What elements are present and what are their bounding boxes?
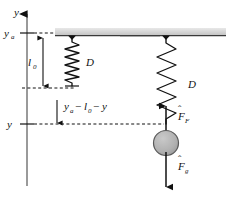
extension-expression-label: y a − l 0 − y [63, 100, 107, 115]
tick-label-ya-sub: a [11, 33, 15, 41]
gravity-force-label-base: F [177, 160, 185, 172]
l0-label-sub: 0 [33, 63, 37, 71]
mass-circle [154, 131, 179, 156]
gravity-force-vector: ˆ F g [166, 152, 189, 187]
l0-label-base: l [28, 56, 31, 68]
extension-term2-base: l [84, 100, 87, 112]
physics-spring-diagram: y y a y [0, 0, 226, 197]
spring-force-label-base: F [177, 110, 185, 122]
extension-term3: y [101, 100, 107, 112]
l0-dimension-arrow: l 0 [28, 38, 43, 86]
tick-ya: y a [3, 27, 56, 41]
tick-label-y: y [6, 118, 12, 130]
extension-operator-1: − [75, 100, 81, 112]
axis-label-y: y [13, 6, 19, 18]
tick-label-ya-base: y [3, 27, 9, 39]
ceiling-right-slab [120, 28, 226, 36]
diagram-canvas: y y a y [0, 0, 226, 197]
spring-left-label-D: D [85, 56, 94, 68]
spring-left-relaxed [65, 36, 79, 86]
tick-y: y [6, 118, 164, 130]
gravity-force-label-sub: g [185, 167, 189, 175]
ceiling-right [120, 28, 226, 36]
spring-right-label-D: D [187, 78, 196, 90]
extension-term1-base: y [63, 100, 69, 112]
hanging-mass [154, 131, 179, 156]
extension-operator-2: − [93, 100, 99, 112]
extension-term1-sub: a [70, 107, 74, 115]
spring-left-coils [65, 40, 79, 87]
extension-term2-sub: 0 [88, 107, 92, 115]
spring-force-label-sub: F [184, 117, 190, 125]
